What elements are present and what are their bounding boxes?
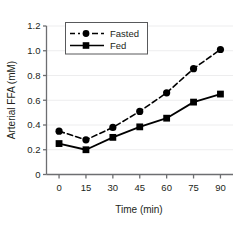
y-tick-label-4: 0.8 — [27, 70, 40, 81]
x-tick-label-6: 90 — [215, 182, 226, 193]
data-point-fed-90 — [217, 91, 224, 98]
data-point-fasted-45 — [136, 108, 143, 115]
legend-marker-circle-fasted — [83, 30, 90, 37]
x-tick-label-3: 45 — [134, 182, 145, 193]
data-point-fasted-30 — [109, 124, 116, 131]
data-point-fasted-15 — [82, 136, 89, 143]
x-axis-title: Time (min) — [115, 204, 162, 215]
x-tick-label-1: 15 — [81, 182, 92, 193]
y-tick-label-3: 0.6 — [27, 95, 40, 106]
data-point-fed-60 — [163, 115, 170, 122]
data-point-fed-75 — [190, 99, 197, 106]
legend-marker-square-fed — [83, 42, 90, 49]
legend-label-fed: Fed — [110, 40, 126, 51]
chart-figure: 00.20.40.60.81.01.2 0153045607590 Arteri… — [0, 0, 246, 227]
data-point-fasted-0 — [55, 128, 62, 135]
legend: Fasted Fed — [66, 23, 148, 55]
y-tick-label-2: 0.4 — [27, 119, 40, 130]
legend-label-fasted: Fasted — [110, 28, 139, 39]
x-tick-label-5: 75 — [188, 182, 199, 193]
y-tick-label-6: 1.2 — [27, 20, 40, 31]
data-point-fasted-75 — [190, 65, 197, 72]
data-point-fed-45 — [136, 123, 143, 130]
y-tick-label-0: 0 — [35, 169, 40, 180]
x-tick-label-2: 30 — [108, 182, 119, 193]
y-axis-title: Arterial FFA (mM) — [6, 61, 17, 139]
data-point-fasted-90 — [217, 46, 224, 53]
x-tick-label-0: 0 — [56, 182, 61, 193]
y-tick-label-1: 0.2 — [27, 144, 40, 155]
line-chart: 00.20.40.60.81.01.2 0153045607590 Arteri… — [0, 0, 246, 227]
data-point-fasted-60 — [163, 89, 170, 96]
data-point-fed-30 — [109, 134, 116, 141]
x-tick-label-4: 60 — [161, 182, 172, 193]
data-point-fed-0 — [56, 140, 63, 147]
data-point-fed-15 — [83, 146, 90, 153]
y-tick-label-5: 1.0 — [27, 45, 40, 56]
